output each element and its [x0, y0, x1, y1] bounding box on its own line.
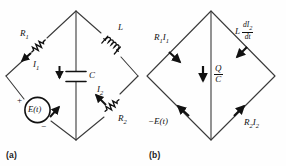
label-drop-neg-et: −E(t)	[148, 117, 168, 126]
current-i1-arrow	[22, 53, 31, 61]
panel-a-caption: (a)	[6, 150, 17, 160]
c-denominator: C	[214, 75, 223, 85]
polarity-minus: −	[41, 122, 46, 131]
figure-container: R1 I1 L C E(t) + − I2 R2 (a)	[0, 0, 286, 166]
label-et: E(t)	[28, 105, 41, 114]
current-i2-arrow	[96, 95, 106, 105]
label-i1: I1	[33, 60, 39, 71]
wire-lower-right-upper	[120, 76, 138, 94]
polarity-plus: +	[17, 96, 22, 105]
q-numerator: Q	[214, 64, 223, 75]
label-r1: R1	[20, 29, 29, 40]
resistor-r1-symbol	[30, 38, 48, 55]
arrow-upper-left	[169, 52, 180, 62]
source-current-arrow	[50, 107, 59, 117]
wire-upper-left-upper	[47, 11, 76, 38]
label-l-coefficient: L	[235, 26, 240, 36]
fraction-numerator: dI2	[242, 21, 253, 33]
panel-a-circuit-diagram: R1 I1 L C E(t) + − I2 R2 (a)	[0, 0, 143, 166]
resistor-r2-symbol	[103, 97, 121, 113]
arrow-upper-right	[237, 47, 247, 57]
arrow-lower-left	[178, 106, 189, 116]
label-l: L	[118, 23, 123, 32]
panel-b-caption: (b)	[149, 150, 160, 160]
label-i2: I2	[97, 85, 103, 96]
wire-upper-right-upper	[76, 11, 101, 33]
capacitor-c-symbol	[66, 72, 86, 82]
wire-upper-right-lower	[121, 57, 138, 76]
label-r2: R2	[118, 114, 127, 125]
wire-lower-left-lower	[51, 121, 76, 140]
label-drop-r1i1: R1I1	[154, 33, 169, 44]
fraction-didt: dI2 dt	[242, 21, 253, 41]
label-c: C	[89, 71, 95, 80]
wire-lower-right-lower	[76, 117, 104, 140]
fraction-denominator: dt	[242, 33, 253, 41]
arrow-lower-right	[234, 106, 244, 116]
label-drop-r2i2: R2I2	[244, 118, 259, 129]
inductor-l-symbol	[101, 35, 122, 55]
panel-b-voltage-drop-diagram: R1I1 L dI2 dt Q C −E(t) R2I2 (b)	[143, 0, 286, 166]
label-drop-q-over-c: Q C	[214, 64, 223, 85]
label-drop-l-didt: L dI2 dt	[235, 21, 253, 41]
